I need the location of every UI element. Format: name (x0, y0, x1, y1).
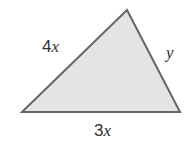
side-label-bottom: 3x (94, 121, 111, 140)
triangle-diagram: 4x y 3x (0, 0, 190, 144)
side-label-right: y (164, 43, 174, 62)
triangle-shape (22, 10, 180, 112)
side-label-left: 4x (42, 37, 59, 56)
